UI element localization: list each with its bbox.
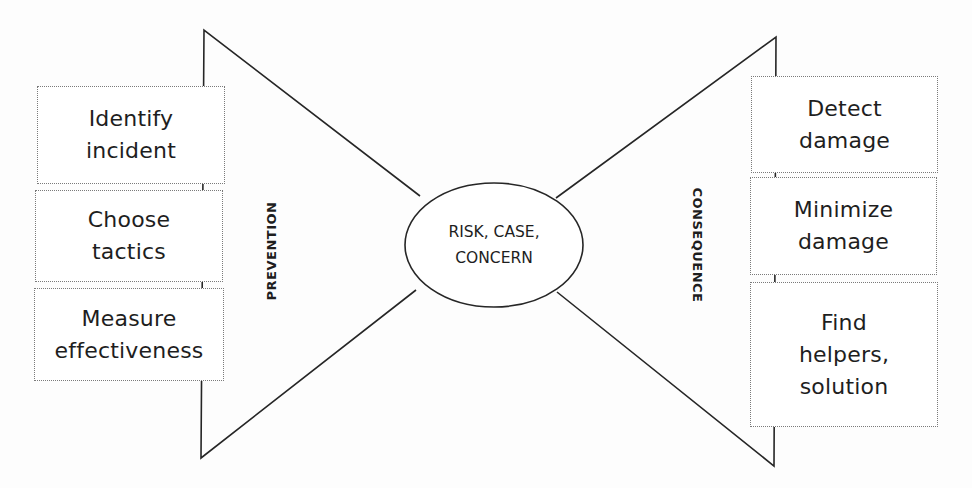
consequence-triangle <box>556 37 776 466</box>
box-measure-effectiveness: Measure effectiveness <box>34 288 224 381</box>
box-find-helpers-solution: Find helpers, solution <box>750 282 938 427</box>
bow-tie-diagram: Identify incident Choose tactics Measure… <box>0 0 972 488</box>
box-choose-tactics: Choose tactics <box>35 190 223 282</box>
consequence-label: CONSEQUENCE <box>690 187 705 302</box>
prevention-triangle <box>201 30 420 458</box>
box-identify-incident: Identify incident <box>37 86 225 184</box>
prevention-label: PREVENTION <box>264 202 279 301</box>
box-minimize-damage: Minimize damage <box>750 177 937 275</box>
box-detect-damage: Detect damage <box>751 76 938 173</box>
center-risk-label: RISK, CASE, CONCERN <box>405 183 583 307</box>
